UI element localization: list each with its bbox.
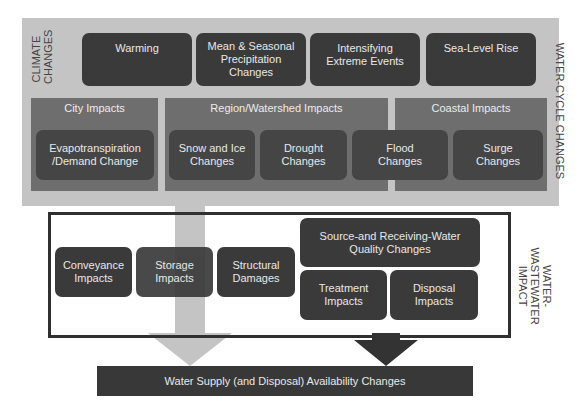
water-cycle-changes-label: WATER-CYCLE CHANGES bbox=[552, 36, 566, 186]
water-supply-availability-changes: Water Supply (and Disposal) Availability… bbox=[97, 366, 473, 396]
climate-item-warming: Warming bbox=[82, 33, 192, 86]
water-wastewater-impact-label: WATER- WASTEWATER IMPACT bbox=[513, 231, 553, 341]
panel-title: City Impacts bbox=[31, 102, 158, 114]
ww-item-structural: Structural Damages bbox=[217, 247, 295, 297]
climate-item-precipitation: Mean & Seasonal Precipitation Changes bbox=[196, 33, 306, 86]
ww-item-disposal: Disposal Impacts bbox=[390, 270, 478, 320]
impact-flood: Flood Changes bbox=[352, 130, 448, 180]
climate-changes-label: CLIMATE CHANGES bbox=[30, 34, 60, 84]
impact-drought: Drought Changes bbox=[260, 130, 347, 180]
dark-arrow-shaft bbox=[372, 333, 400, 341]
impact-surge: Surge Changes bbox=[453, 130, 543, 180]
climate-item-extreme-events: Intensifying Extreme Events bbox=[310, 33, 420, 86]
climate-item-sea-level-rise: Sea-Level Rise bbox=[426, 33, 536, 86]
ww-item-conveyance: Conveyance Impacts bbox=[55, 247, 132, 297]
ww-item-treatment: Treatment Impacts bbox=[300, 270, 387, 320]
panel-title: Region/Watershed Impacts bbox=[165, 102, 388, 114]
ww-item-storage: Storage Impacts bbox=[136, 247, 213, 297]
impact-snow-ice: Snow and Ice Changes bbox=[169, 130, 255, 180]
panel-title: Coastal Impacts bbox=[395, 102, 547, 114]
ww-item-water-quality: Source-and Receiving-Water Quality Chang… bbox=[300, 218, 480, 267]
impact-evapotranspiration: Evapotranspiration /Demand Change bbox=[36, 130, 154, 180]
